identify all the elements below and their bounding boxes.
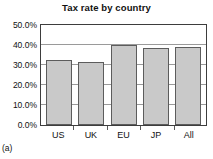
y-axis-tick-label: 0.0% xyxy=(0,120,37,130)
bar-eu[interactable] xyxy=(111,45,137,125)
bar-series xyxy=(41,25,206,125)
bar-slot xyxy=(75,25,107,125)
bar-slot xyxy=(140,25,172,125)
y-axis-tick-label: 30.0% xyxy=(0,60,37,70)
y-axis-tick-label: 10.0% xyxy=(0,100,37,110)
x-axis-labels: USUKEUJPAll xyxy=(40,130,207,140)
y-axis-tick-label: 20.0% xyxy=(0,80,37,90)
bar-slot xyxy=(107,25,139,125)
bar-slot xyxy=(43,25,75,125)
x-axis-label-eu: EU xyxy=(107,130,140,140)
x-axis-label-all: All xyxy=(172,130,205,140)
bar-us[interactable] xyxy=(46,60,72,125)
plot-area xyxy=(40,24,207,126)
bar-uk[interactable] xyxy=(78,62,104,125)
chart-title: Tax rate by country xyxy=(0,2,213,13)
x-axis-label-uk: UK xyxy=(75,130,108,140)
panel-caption: (a) xyxy=(2,143,12,153)
figure-panel: Tax rate by country 0.0%10.0%20.0%30.0%4… xyxy=(0,0,213,159)
x-axis-label-jp: JP xyxy=(140,130,173,140)
bar-all[interactable] xyxy=(175,47,201,125)
bar-jp[interactable] xyxy=(143,48,169,125)
x-axis-label-us: US xyxy=(42,130,75,140)
y-axis-tick-label: 50.0% xyxy=(0,20,37,30)
y-axis-tick-label: 40.0% xyxy=(0,40,37,50)
bar-slot xyxy=(172,25,204,125)
